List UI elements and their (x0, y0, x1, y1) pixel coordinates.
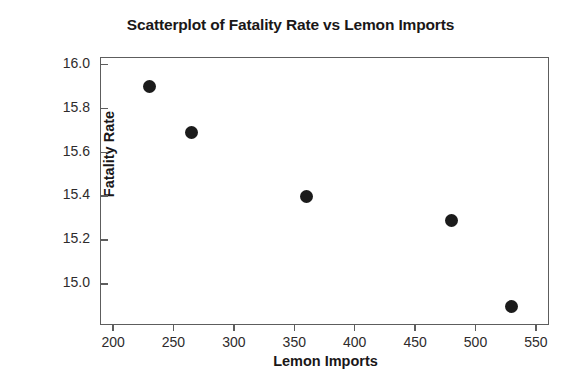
x-tick-mark (233, 324, 235, 331)
y-tick-label: 15.2 (63, 230, 90, 246)
x-tick-label: 500 (446, 334, 506, 350)
x-tick-label: 200 (83, 334, 143, 350)
x-tick-label: 350 (264, 334, 324, 350)
y-tick-label: 15.8 (63, 99, 90, 115)
data-point (300, 190, 313, 203)
plot-area: Fatality Rate Lemon Imports 16.015.815.6… (100, 57, 549, 325)
y-tick-label: 15.4 (63, 186, 90, 202)
data-point (143, 80, 156, 93)
x-tick-mark (112, 324, 114, 331)
data-point (185, 126, 198, 139)
data-point (445, 214, 458, 227)
x-tick-mark (173, 324, 175, 331)
y-tick-label: 16.0 (63, 55, 90, 71)
x-tick-label: 250 (143, 334, 203, 350)
x-tick-mark (294, 324, 296, 331)
scatterplot-figure: Scatterplot of Fatality Rate vs Lemon Im… (0, 0, 581, 389)
x-tick-label: 400 (325, 334, 385, 350)
x-tick-label: 450 (385, 334, 445, 350)
x-tick-label: 300 (204, 334, 264, 350)
x-axis-label: Lemon Imports (101, 353, 550, 369)
x-tick-mark (354, 324, 356, 331)
data-point (505, 300, 518, 313)
y-tick-label: 15.0 (63, 274, 90, 290)
x-tick-mark (535, 324, 537, 331)
data-points-layer (101, 58, 548, 324)
x-tick-label: 550 (506, 334, 566, 350)
y-tick-label: 15.6 (63, 143, 90, 159)
chart-title: Scatterplot of Fatality Rate vs Lemon Im… (0, 16, 581, 34)
x-tick-mark (475, 324, 477, 331)
x-tick-mark (414, 324, 416, 331)
